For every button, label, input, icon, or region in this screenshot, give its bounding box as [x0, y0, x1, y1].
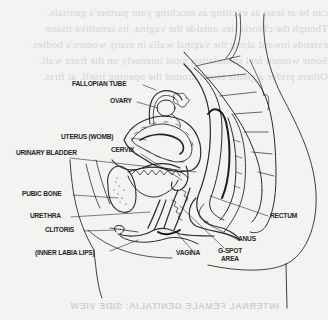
uterus-inner: [132, 124, 192, 162]
back-outline: [264, 14, 317, 264]
label-gspot-area: G-SPOT AREA: [212, 248, 248, 262]
vertebra-divider: [196, 56, 240, 66]
urethra: [148, 200, 160, 228]
vertebra-divider: [206, 74, 246, 78]
leader-inner-labia: [110, 240, 138, 251]
label-anus: ANUS: [238, 236, 256, 243]
label-pubic-bone: PUBIC BONE: [22, 191, 61, 198]
label-gspot-line2: AREA: [212, 256, 248, 263]
label-clitoris: CLITORIS: [45, 227, 74, 234]
label-urethra: URETHRA: [30, 213, 61, 220]
sacrum-back: [230, 60, 276, 226]
rectum-lumen: [208, 109, 229, 198]
coccyx: [252, 190, 262, 222]
pubic-bone-stipple: [113, 177, 126, 204]
leader-fallopian-tube: [143, 85, 156, 90]
label-fallopian-tube: FALLOPIAN TUBE: [72, 81, 126, 88]
vertebra-divider: [234, 112, 262, 114]
pubic-bone: [108, 166, 136, 212]
buttock-outline: [208, 264, 286, 270]
thigh-front-line: [94, 250, 102, 298]
abdominal-wall-2: [86, 164, 100, 208]
label-cervix: CERVIX: [111, 147, 134, 154]
female-anatomy-diagram: [0, 0, 328, 320]
vagina-front: [164, 190, 178, 228]
scanned-page: can be at least as exciting as touching …: [0, 0, 328, 320]
rectum-inner: [194, 68, 224, 220]
label-rectum: RECTUM: [270, 213, 297, 220]
perineum-dark: [158, 230, 180, 234]
rectum-outer: [184, 64, 240, 240]
fimbriae: [173, 93, 189, 107]
leader-anus: [204, 222, 238, 240]
leader-rectum: [210, 196, 268, 216]
abdomen-outline: [70, 160, 94, 250]
label-uterus: UTERUS (WOMB): [61, 134, 113, 141]
vertebra-divider: [220, 92, 256, 96]
leader-urethra: [71, 212, 150, 217]
rectum-bulb-inner: [199, 204, 208, 222]
label-urinary-bladder: URINARY BLADDER: [16, 150, 77, 157]
label-gspot-line1: G-SPOT: [212, 248, 248, 255]
ovary: [157, 100, 175, 116]
thigh-back-line: [286, 264, 287, 308]
label-vagina: VAGINA: [176, 250, 200, 257]
uterus-dashes-2: [146, 150, 184, 162]
coccyx-back: [250, 226, 266, 233]
urethra-2: [154, 200, 166, 230]
sacrum-front: [184, 52, 262, 190]
label-ovary: OVARY: [110, 98, 132, 105]
spine-front-2: [230, 14, 241, 60]
labia-outline: [120, 236, 198, 244]
belly-fold: [88, 230, 172, 258]
vagina-wall-zigzag: [172, 200, 182, 220]
spine-front: [226, 13, 237, 58]
label-inner-labia: (INNER LABIA LIPS): [35, 250, 95, 257]
bladder-top: [112, 160, 180, 170]
